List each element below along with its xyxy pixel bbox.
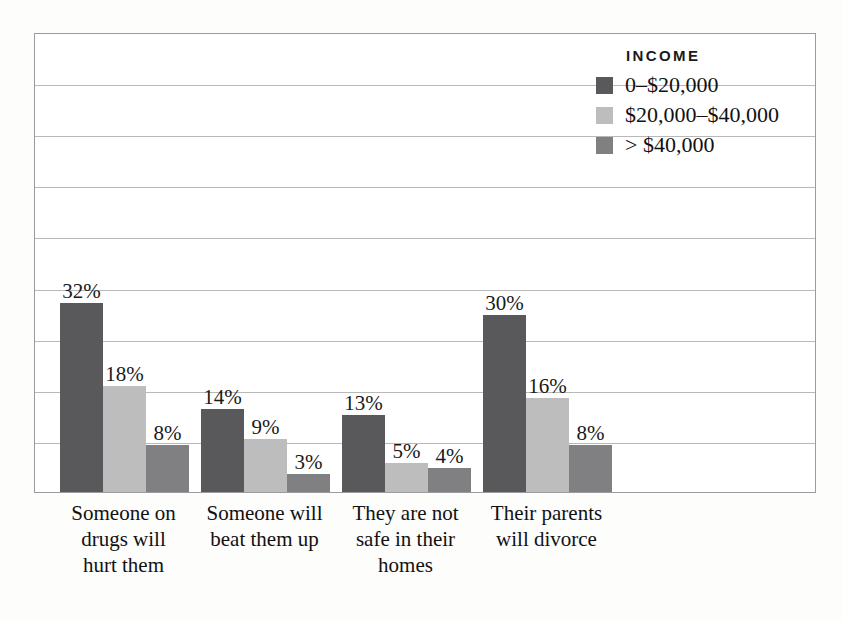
bar-value-label: 9%	[252, 417, 280, 438]
bar[interactable]: 13%	[342, 415, 385, 492]
legend-items: 0–$20,000$20,000–$40,000> $40,000	[596, 70, 811, 160]
category-label-line: Someone will	[190, 500, 339, 526]
category-label-line: Someone on	[49, 500, 198, 526]
legend-swatch-icon	[596, 107, 613, 124]
category-label: Someone willbeat them up	[190, 500, 339, 552]
category-label-line: beat them up	[190, 526, 339, 552]
bar[interactable]: 14%	[201, 409, 244, 492]
bar-value-label: 30%	[485, 293, 524, 314]
legend-item[interactable]: $20,000–$40,000	[596, 100, 811, 130]
legend-item[interactable]: > $40,000	[596, 130, 811, 160]
category-label-line: drugs will	[49, 526, 198, 552]
legend-swatch-icon	[596, 137, 613, 154]
bar-value-label: 18%	[105, 364, 144, 385]
chart-legend: INCOME 0–$20,000$20,000–$40,000> $40,000	[596, 47, 811, 160]
legend-item[interactable]: 0–$20,000	[596, 70, 811, 100]
legend-item-label: $20,000–$40,000	[625, 102, 779, 128]
bar[interactable]: 16%	[526, 398, 569, 492]
category-label: Their parentswill divorce	[472, 500, 621, 552]
bar-value-label: 16%	[528, 376, 567, 397]
bar[interactable]: 8%	[146, 445, 189, 492]
category-label-line: will divorce	[472, 526, 621, 552]
bar-group: 32%18%8%	[60, 34, 189, 492]
bar-value-label: 3%	[295, 452, 323, 473]
chart-figure: 32%18%8%14%9%3%13%5%4%30%16%8% INCOME 0–…	[0, 0, 843, 621]
category-label-line: safe in their	[331, 526, 480, 552]
bar[interactable]: 32%	[60, 303, 103, 492]
bar-value-label: 32%	[62, 281, 101, 302]
legend-title: INCOME	[626, 47, 811, 64]
category-label-line: They are not	[331, 500, 480, 526]
bar-value-label: 13%	[344, 393, 383, 414]
category-label-line: homes	[331, 552, 480, 578]
bar-group: 13%5%4%	[342, 34, 471, 492]
category-label: They are notsafe in theirhomes	[331, 500, 480, 578]
bar-value-label: 5%	[393, 441, 421, 462]
bar[interactable]: 30%	[483, 315, 526, 492]
bar[interactable]: 5%	[385, 463, 428, 492]
bar-value-label: 14%	[203, 387, 242, 408]
category-label-line: hurt them	[49, 552, 198, 578]
legend-item-label: > $40,000	[625, 132, 714, 158]
bar-value-label: 8%	[154, 423, 182, 444]
legend-swatch-icon	[596, 77, 613, 94]
bar-group: 14%9%3%	[201, 34, 330, 492]
bar[interactable]: 9%	[244, 439, 287, 492]
bar-value-label: 8%	[577, 423, 605, 444]
bar[interactable]: 4%	[428, 468, 471, 492]
legend-item-label: 0–$20,000	[625, 72, 719, 98]
category-label: Someone ondrugs willhurt them	[49, 500, 198, 578]
bar[interactable]: 8%	[569, 445, 612, 492]
bar[interactable]: 3%	[287, 474, 330, 492]
bar-value-label: 4%	[436, 446, 464, 467]
bar[interactable]: 18%	[103, 386, 146, 492]
bar-group: 30%16%8%	[483, 34, 612, 492]
x-axis-category-labels: Someone ondrugs willhurt themSomeone wil…	[34, 500, 816, 600]
category-label-line: Their parents	[472, 500, 621, 526]
